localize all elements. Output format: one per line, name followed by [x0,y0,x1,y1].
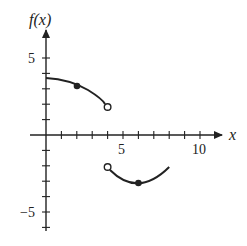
x-tick-label-10: 10 [192,142,206,157]
y-tick-label-5: 5 [28,51,35,66]
y-tick-label-neg5: −5 [20,205,35,220]
curve-piece-1 [46,78,105,104]
filled-point-1 [74,83,81,90]
function-graph: f(x) x 5 10 5 −5 [0,0,247,246]
open-point-2 [104,164,111,171]
y-axis-label: f(x) [29,11,51,29]
open-point-1 [104,104,111,111]
filled-point-2 [135,180,142,187]
x-axis-label: x [228,126,236,143]
x-tick-label-5: 5 [118,142,125,157]
